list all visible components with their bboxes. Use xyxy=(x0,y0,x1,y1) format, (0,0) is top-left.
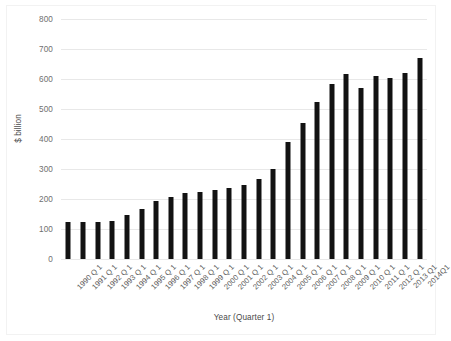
bar xyxy=(344,74,349,259)
plot-area xyxy=(61,19,427,259)
bar-slot xyxy=(134,19,149,259)
bar xyxy=(271,169,276,259)
bar xyxy=(417,58,422,259)
bar xyxy=(373,76,378,259)
bar xyxy=(198,192,203,259)
bar xyxy=(300,123,305,260)
bar xyxy=(227,188,232,259)
bar-slot xyxy=(339,19,354,259)
y-axis-tick-200: 200 xyxy=(7,195,53,204)
bar-slot xyxy=(149,19,164,259)
bar xyxy=(388,78,393,259)
bar-slot xyxy=(281,19,296,259)
bar xyxy=(154,201,159,259)
y-axis-tick-100: 100 xyxy=(7,225,53,234)
bar-slot xyxy=(398,19,413,259)
y-axis-tick-500: 500 xyxy=(7,105,53,114)
bar-slot xyxy=(310,19,325,259)
x-axis-title: Year (Quarter 1) xyxy=(61,313,427,322)
bar-slot xyxy=(90,19,105,259)
bar xyxy=(168,197,173,259)
bar-slot xyxy=(193,19,208,259)
chart-container: $ billion 0100200300400500600700800 1990… xyxy=(6,5,436,335)
bar-slot xyxy=(207,19,222,259)
y-axis-tick-600: 600 xyxy=(7,75,53,84)
bar-slot xyxy=(412,19,427,259)
bar xyxy=(256,179,261,259)
bar xyxy=(95,222,100,259)
bar-slot xyxy=(295,19,310,259)
bar-slot xyxy=(266,19,281,259)
bar-slot xyxy=(368,19,383,259)
bar xyxy=(139,209,144,259)
y-axis-tick-400: 400 xyxy=(7,135,53,144)
bar-series xyxy=(61,19,427,259)
bar-slot xyxy=(222,19,237,259)
bar xyxy=(124,215,129,259)
bar xyxy=(403,73,408,259)
bar-slot xyxy=(105,19,120,259)
bar xyxy=(80,222,85,259)
bar xyxy=(285,142,290,259)
bar-slot xyxy=(383,19,398,259)
y-axis-tick-0: 0 xyxy=(7,255,53,264)
bar xyxy=(212,190,217,259)
bar xyxy=(110,221,115,259)
bar-slot xyxy=(163,19,178,259)
bar xyxy=(315,102,320,259)
bar xyxy=(329,84,334,259)
bar xyxy=(66,222,71,259)
bar-slot xyxy=(251,19,266,259)
bar-slot xyxy=(178,19,193,259)
bar-slot xyxy=(76,19,91,259)
bar xyxy=(359,88,364,259)
bar-slot xyxy=(120,19,135,259)
bar-slot xyxy=(61,19,76,259)
bar-slot xyxy=(237,19,252,259)
bar xyxy=(183,193,188,259)
bar-slot xyxy=(325,19,340,259)
y-axis-tick-800: 800 xyxy=(7,15,53,24)
bar-slot xyxy=(354,19,369,259)
x-axis-tick-labels: 1990 Q 11991 Q 11992 Q 11993 Q 11994 Q 1… xyxy=(61,259,427,309)
y-axis-tick-700: 700 xyxy=(7,45,53,54)
y-axis-tick-300: 300 xyxy=(7,165,53,174)
bar xyxy=(241,185,246,259)
